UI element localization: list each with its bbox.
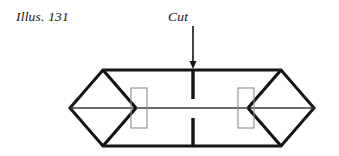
right-lower-crease [248,108,281,146]
right-upper-crease [248,70,281,108]
diagram-canvas [0,0,339,156]
figure-root: Illus. 131 Cut [0,0,339,156]
cut-arrow-head [190,61,197,69]
cut-arrow [190,26,197,69]
